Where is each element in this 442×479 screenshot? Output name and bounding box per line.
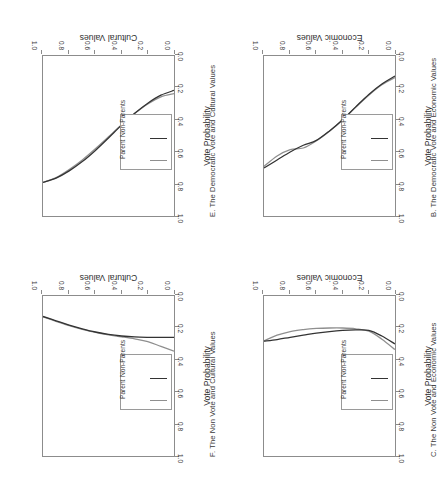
y-axis-tick-label: 0.4: [398, 357, 405, 366]
x-axis-tick-label: 1.0: [31, 41, 38, 50]
y-axis-tick-label: 0.2: [398, 324, 405, 333]
y-axis-tick-label: 0.0: [177, 52, 184, 61]
legend-item: Non-Parents: [371, 138, 388, 139]
y-axis-tick-label: 0.6: [398, 149, 405, 158]
panel-b-x-axis-title: Economic Values: [263, 33, 396, 43]
x-axis-tick: [174, 50, 175, 54]
x-axis-tick: [262, 50, 263, 54]
y-axis-tick-label: 0.2: [398, 84, 405, 93]
legend-label: Parent: [340, 380, 347, 399]
y-axis-tick-label: 1.0: [398, 454, 405, 463]
panel-e-legend: ParentNon-Parents: [120, 114, 172, 170]
y-axis-tick-label: 0.4: [398, 117, 405, 126]
x-axis-tick: [94, 290, 95, 294]
legend-line-swatch: [150, 378, 167, 379]
panel-e-y-axis-title: Vote Probability: [201, 55, 213, 217]
legend-line-swatch: [371, 378, 388, 379]
y-axis-tick-label: 0.8: [177, 422, 184, 431]
y-axis-tick-label: 0.8: [398, 422, 405, 431]
legend-item: Non-Parents: [150, 138, 167, 139]
legend-item: Parent: [371, 400, 388, 401]
legend-item: Parent: [371, 160, 388, 161]
panel-f-legend: ParentNon-Parents: [120, 354, 172, 410]
legend-item: Non-Parents: [371, 378, 388, 379]
x-axis-tick: [342, 290, 343, 294]
x-axis-tick: [121, 290, 122, 294]
legend-label: Non-Parents: [119, 340, 126, 377]
panel-e-y-axis: 0.00.20.40.60.81.0: [175, 55, 185, 217]
panel-c-plot-area: ParentNon-Parents: [263, 295, 396, 457]
y-axis-tick-label: 0.4: [177, 117, 184, 126]
x-axis-tick: [41, 50, 42, 54]
y-axis-tick-label: 0.8: [398, 182, 405, 191]
panel-b-legend: ParentNon-Parents: [341, 114, 393, 170]
panel-b-x-axis: 0.00.20.40.60.81.0: [263, 44, 396, 54]
y-axis-tick-label: 0.4: [177, 357, 184, 366]
panel-f-x-axis: 0.00.20.40.60.81.0: [42, 284, 175, 294]
y-axis-tick-label: 0.0: [177, 292, 184, 301]
x-axis-tick: [289, 50, 290, 54]
x-axis-tick: [395, 50, 396, 54]
legend-line-swatch: [371, 400, 388, 401]
x-axis-tick: [68, 290, 69, 294]
x-axis-tick: [94, 50, 95, 54]
x-axis-tick: [368, 290, 369, 294]
legend-item: Parent: [150, 160, 167, 161]
legend-line-swatch: [150, 400, 167, 401]
x-axis-tick-label: 1.0: [252, 281, 259, 290]
x-axis-tick: [315, 50, 316, 54]
y-axis-tick-label: 0.8: [177, 182, 184, 191]
y-axis-tick-label: 1.0: [398, 214, 405, 223]
legend-label: Non-Parents: [340, 340, 347, 377]
panel-c-y-axis-title: Vote Probability: [422, 295, 434, 457]
x-axis-tick: [315, 290, 316, 294]
panel-c-series-non-parents: [264, 330, 395, 344]
panel-f-plot-area: ParentNon-Parents: [42, 295, 175, 457]
y-axis-tick-label: 0.0: [398, 292, 405, 301]
panel-e-plot-area: ParentNon-Parents: [42, 55, 175, 217]
legend-label: Parent: [119, 140, 126, 159]
x-axis-tick: [262, 290, 263, 294]
x-axis-tick: [121, 50, 122, 54]
x-axis-tick-label: 1.0: [252, 41, 259, 50]
y-axis-tick-label: 0.2: [177, 84, 184, 93]
x-axis-tick: [368, 50, 369, 54]
y-axis-tick-label: 0.6: [177, 149, 184, 158]
y-axis-tick-label: 1.0: [177, 214, 184, 223]
panel-c-x-axis-title: Economic Values: [263, 273, 396, 283]
panel-f: F. The Non Vote and Cultural Values Vote…: [0, 240, 221, 479]
panel-f-series-non-parents: [43, 316, 174, 337]
legend-item: Non-Parents: [150, 378, 167, 379]
panel-c-y-axis: 0.00.20.40.60.81.0: [396, 295, 406, 457]
x-axis-tick: [147, 290, 148, 294]
four-panel-figure: C. The Non Vote and Economic Values Vote…: [0, 0, 442, 479]
panel-e-x-axis-title: Cultural Values: [42, 33, 175, 43]
legend-line-swatch: [371, 138, 388, 139]
legend-label: Parent: [340, 140, 347, 159]
legend-label: Non-Parents: [340, 100, 347, 137]
legend-line-swatch: [371, 160, 388, 161]
x-axis-tick: [147, 50, 148, 54]
x-axis-tick: [174, 290, 175, 294]
panel-e-x-axis: 0.00.20.40.60.81.0: [42, 44, 175, 54]
legend-item: Parent: [150, 400, 167, 401]
x-axis-tick: [68, 50, 69, 54]
panel-b-plot-area: ParentNon-Parents: [263, 55, 396, 217]
panel-c-legend: ParentNon-Parents: [341, 354, 393, 410]
legend-label: Parent: [119, 380, 126, 399]
x-axis-tick: [289, 290, 290, 294]
y-axis-tick-label: 1.0: [177, 454, 184, 463]
x-axis-tick-label: 1.0: [31, 281, 38, 290]
panel-b: B. The Democratic Vote and Economic Valu…: [221, 0, 442, 239]
legend-line-swatch: [150, 160, 167, 161]
legend-line-swatch: [150, 138, 167, 139]
panel-b-y-axis-title: Vote Probability: [422, 55, 434, 217]
panel-f-y-axis-title: Vote Probability: [201, 295, 213, 457]
panel-e: E. The Democratic Vote and Cultural Valu…: [0, 0, 221, 239]
y-axis-tick-label: 0.6: [177, 389, 184, 398]
y-axis-tick-label: 0.2: [177, 324, 184, 333]
x-axis-tick: [395, 290, 396, 294]
panel-f-y-axis: 0.00.20.40.60.81.0: [175, 295, 185, 457]
x-axis-tick: [342, 50, 343, 54]
panel-c: C. The Non Vote and Economic Values Vote…: [221, 240, 442, 479]
